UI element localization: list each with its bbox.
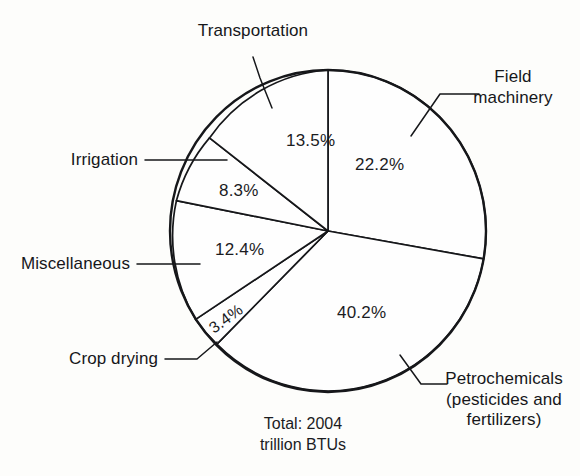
category-label-irrigation-text: Irrigation [71,150,138,169]
category-label-transportation-text: Transportation [198,21,308,40]
category-label-crop-drying-text: Crop drying [69,349,158,368]
category-label-petrochemicals-line2: (pesticides and [428,390,580,411]
category-label-field-machinery-line1: Field [452,67,574,88]
category-label-petrochemicals-line3: fertilizers) [428,410,580,431]
category-label-miscellaneous: Miscellaneous [0,254,130,275]
percent-label-irrigation: 8.3% [219,181,259,201]
category-label-miscellaneous-text: Miscellaneous [21,254,130,273]
category-label-crop-drying: Crop drying [0,349,158,370]
category-label-irrigation: Irrigation [0,150,138,171]
leader-line-crop-drying [165,342,217,359]
category-label-petrochemicals-line1: Petrochemicals [428,369,580,390]
total-caption-line1: Total: 2004 [208,414,398,435]
total-caption-line2: trillion BTUs [208,435,398,456]
category-label-field-machinery-line2: machinery [452,88,574,109]
category-label-field-machinery: Field machinery [452,67,574,108]
category-label-transportation: Transportation [168,21,338,42]
total-caption: Total: 2004 trillion BTUs [208,414,398,456]
percent-label-petrochemicals: 40.2% [337,303,386,323]
percent-label-transportation: 13.5% [286,131,335,151]
pie-chart-figure: 13.5% 22.2% 8.3% 12.4% 3.4% 40.2% Transp… [0,0,580,476]
category-label-petrochemicals: Petrochemicals (pesticides and fertilize… [428,369,580,431]
percent-label-field-machinery: 22.2% [355,155,404,175]
percent-label-miscellaneous: 12.4% [215,240,264,260]
